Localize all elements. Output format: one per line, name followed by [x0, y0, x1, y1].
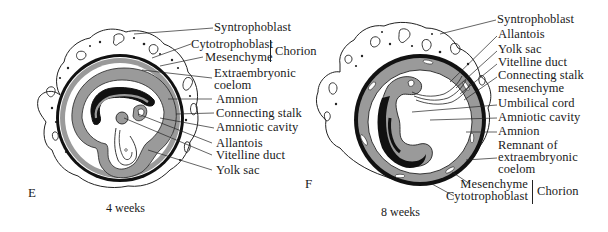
label-yolk-sac-e: Yolk sac: [216, 164, 260, 177]
label-amniotic-cavity-f: Amniotic cavity: [498, 111, 580, 124]
panel-e-drawing: [38, 28, 214, 188]
label-connecting-stalk-e: Connecting stalk: [216, 107, 302, 120]
chorion-brace-e: [270, 40, 271, 62]
label-chorion-e: Chorion: [275, 45, 317, 58]
label-coelom-f: coelom: [498, 163, 535, 176]
label-amnion-e: Amnion: [216, 93, 258, 106]
label-syntrophoblast-e: Syntrophoblast: [214, 21, 291, 34]
label-amniotic-cavity-e: Amniotic cavity: [216, 121, 298, 134]
panel-caption-e: 4 weeks: [106, 201, 145, 216]
label-cytotrophoblast-f: Cytotrophoblast: [430, 190, 528, 203]
panel-letter-f: F: [305, 176, 312, 192]
label-chorion-f: Chorion: [537, 185, 579, 198]
label-umbilical-cord-f: Umbilical cord: [498, 97, 575, 110]
panel-letter-e: E: [28, 185, 36, 201]
label-allantois-f: Allantois: [498, 28, 545, 41]
label-coelom-e: coelom: [214, 79, 251, 92]
label-connecting-stalk-mesenchyme-f: mesenchyme: [498, 82, 564, 95]
label-mesenchyme-e: Mesenchyme: [205, 51, 273, 64]
label-syntrophoblast-f: Syntrophoblast: [497, 13, 574, 26]
panel-f-drawing: [316, 20, 497, 196]
panel-caption-f: 8 weeks: [381, 205, 420, 220]
label-amnion-f: Amnion: [498, 125, 540, 138]
chorion-brace-f: [532, 180, 533, 204]
label-vitelline-duct-e: Vitelline duct: [216, 149, 285, 162]
embryonic-membranes-figure: Syntrophoblast Cytotrophoblast Mesenchym…: [0, 0, 608, 232]
